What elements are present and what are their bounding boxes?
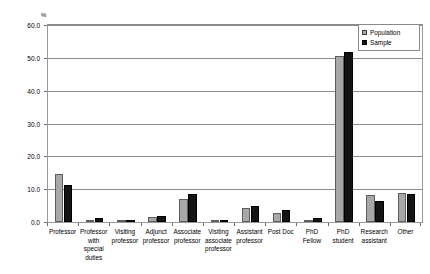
- bar-group: [79, 25, 110, 222]
- bar-population: [148, 217, 157, 222]
- x-axis-tick: [203, 223, 204, 226]
- x-axis-tick: [359, 223, 360, 226]
- x-axis-tick: [234, 223, 235, 226]
- x-axis-ticks: [47, 223, 423, 227]
- x-axis-tick: [172, 223, 173, 226]
- y-axis-labels: 0.010.020.030.040.050.060.0: [0, 0, 45, 274]
- x-axis-tick: [328, 223, 329, 226]
- category-label-line: duties: [72, 254, 115, 263]
- bar-sample: [126, 220, 135, 222]
- y-axis-tick-label: 60.0: [27, 22, 40, 29]
- x-axis-tick: [47, 223, 48, 226]
- x-axis-tick: [420, 223, 421, 226]
- bar-sample: [188, 194, 197, 222]
- bar-population: [179, 199, 188, 222]
- bar-sample: [95, 218, 104, 222]
- bar-group: [360, 25, 391, 222]
- bar-group: [266, 25, 297, 222]
- bar-sample: [313, 218, 322, 222]
- bar-group: [173, 25, 204, 222]
- bar-population: [398, 193, 407, 222]
- y-axis-tick-label: 50.0: [27, 54, 40, 61]
- category-label-line: professor: [197, 245, 240, 254]
- bar-sample: [220, 220, 229, 222]
- category-label-line: assistant: [353, 237, 396, 246]
- bar-group: [235, 25, 266, 222]
- legend-item-population: Population: [362, 28, 416, 37]
- y-axis-tick: [44, 124, 47, 125]
- x-axis-tick: [109, 223, 110, 226]
- bar-chart: % 0.010.020.030.040.050.060.0 ProfessorP…: [0, 0, 430, 274]
- category-label: Other: [384, 228, 427, 237]
- legend-item-sample: Sample: [362, 38, 416, 47]
- bars-layer: [48, 25, 422, 222]
- category-label-line: Other: [384, 228, 427, 237]
- bar-group: [48, 25, 79, 222]
- bar-population: [211, 220, 220, 222]
- bar-sample: [375, 201, 384, 222]
- bar-sample: [407, 194, 416, 222]
- bar-population: [242, 208, 251, 222]
- bar-population: [366, 195, 375, 222]
- bar-population: [86, 220, 95, 222]
- bar-group: [142, 25, 173, 222]
- y-axis-tick-label: 30.0: [27, 120, 40, 127]
- bar-sample: [282, 210, 291, 222]
- x-axis-tick: [141, 223, 142, 226]
- bar-population: [335, 56, 344, 222]
- legend-label-sample: Sample: [370, 39, 392, 46]
- category-label-line: professor: [228, 237, 271, 246]
- sample-swatch-icon: [362, 40, 367, 45]
- x-axis-category-labels: ProfessorProfessorwithspecialdutiesVisit…: [47, 228, 423, 274]
- y-axis-tick: [44, 189, 47, 190]
- y-axis-tick: [44, 25, 47, 26]
- bar-group: [297, 25, 328, 222]
- bar-sample: [344, 52, 353, 222]
- bar-group: [110, 25, 141, 222]
- bar-sample: [64, 185, 73, 222]
- bar-sample: [157, 216, 166, 222]
- bar-group: [329, 25, 360, 222]
- bar-population: [304, 220, 313, 222]
- y-axis-tick-label: 10.0: [27, 186, 40, 193]
- bar-sample: [251, 206, 260, 222]
- y-axis-tick: [44, 58, 47, 59]
- y-axis-tick-label: 0.0: [31, 219, 40, 226]
- bar-group: [204, 25, 235, 222]
- x-axis-tick: [390, 223, 391, 226]
- x-axis-tick: [78, 223, 79, 226]
- y-axis-tick-label: 40.0: [27, 87, 40, 94]
- x-axis-tick: [296, 223, 297, 226]
- y-axis-tick: [44, 156, 47, 157]
- bar-group: [391, 25, 422, 222]
- category-label-line: special: [72, 245, 115, 254]
- x-axis-tick: [265, 223, 266, 226]
- y-axis-tick: [44, 91, 47, 92]
- bar-population: [55, 174, 64, 222]
- bar-population: [117, 220, 126, 222]
- bar-population: [273, 213, 282, 222]
- legend-label-population: Population: [370, 29, 400, 36]
- y-axis-tick-label: 20.0: [27, 153, 40, 160]
- population-swatch-icon: [362, 30, 367, 35]
- chart-legend: Population Sample: [358, 24, 420, 51]
